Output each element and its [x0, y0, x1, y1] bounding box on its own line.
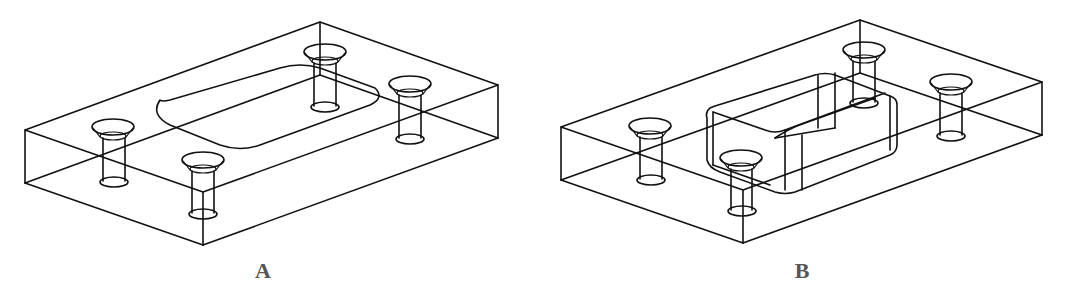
figure-label-a: A: [243, 258, 283, 284]
plate-with-outline-diagram: [0, 0, 535, 298]
top-face: [25, 22, 498, 192]
raised-boss: [706, 73, 897, 194]
figure-label-b: B: [782, 258, 822, 284]
countersunk-hole-2: [720, 150, 762, 216]
countersunk-hole-4: [389, 76, 431, 144]
figure-b: B: [535, 0, 1070, 298]
countersunk-hole-1: [629, 118, 671, 185]
countersunk-hole-1: [92, 119, 134, 187]
rounded-rectangle-outline: [157, 65, 379, 149]
figure-a: A: [0, 0, 535, 298]
countersunk-hole-4: [930, 74, 972, 141]
countersunk-hole-2: [182, 152, 224, 219]
plate-with-boss-diagram: [535, 0, 1070, 298]
